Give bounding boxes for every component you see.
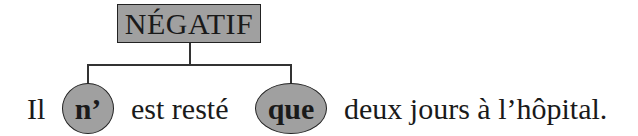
connector-stem (189, 43, 191, 65)
category-label-negatif: NÉGATIF (117, 4, 261, 43)
connector-to-ne (87, 64, 89, 84)
word-il: Il (27, 89, 45, 129)
highlighted-word-ne: n’ (62, 83, 114, 134)
highlighted-word-que: que (255, 83, 327, 134)
connector-to-que (290, 64, 292, 84)
word-rest-of-sentence: deux jours à l’hôpital. (344, 89, 607, 129)
word-est-reste: est resté (131, 89, 228, 129)
connector-horizontal (87, 64, 292, 66)
